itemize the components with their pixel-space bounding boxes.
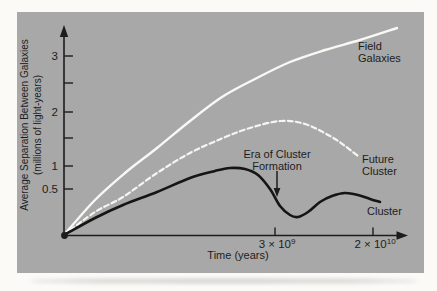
annotation-line2: Formation bbox=[243, 160, 310, 172]
series-label-future-cluster-line2: Cluster bbox=[362, 165, 397, 177]
y-tick-label: 1 bbox=[52, 160, 58, 172]
series-label-future-cluster: Future Cluster bbox=[362, 153, 397, 177]
x-axis-arrowhead-icon bbox=[397, 231, 409, 239]
y-axis-title-line1: Average Separation Between Galaxies bbox=[18, 39, 31, 211]
series-label-future-cluster-line1: Future bbox=[362, 153, 397, 165]
x-tick-label: 2 × 1010 bbox=[354, 237, 396, 251]
curve-future-cluster bbox=[64, 121, 358, 235]
y-tick-label: 3 bbox=[52, 50, 58, 62]
annotation-era-of-cluster-formation: Era of Cluster Formation bbox=[243, 148, 310, 172]
y-axis-title-line2: (millions of light-years) bbox=[31, 39, 44, 211]
origin-dot bbox=[61, 232, 68, 239]
series-label-field-galaxies-line1: Field bbox=[358, 40, 401, 52]
x-axis-title: Time (years) bbox=[207, 249, 268, 261]
series-label-field-galaxies: Field Galaxies bbox=[358, 40, 401, 64]
annotation-line1: Era of Cluster bbox=[243, 148, 310, 160]
y-tick-label: 0.5 bbox=[42, 183, 58, 195]
textbook-figure: 3210.53 × 1092 × 1010 Average Separation… bbox=[0, 0, 437, 291]
series-label-field-galaxies-line2: Galaxies bbox=[358, 52, 401, 64]
curve-field-galaxies bbox=[64, 28, 397, 235]
page-scan-shadow bbox=[30, 279, 418, 283]
y-axis-arrowhead-icon bbox=[60, 25, 68, 37]
x-tick-label: 3 × 109 bbox=[259, 237, 296, 251]
y-tick-label: 2 bbox=[52, 106, 58, 118]
curve-cluster bbox=[64, 168, 380, 235]
series-label-cluster: Cluster bbox=[367, 205, 402, 217]
y-axis-title: Average Separation Between Galaxies (mil… bbox=[18, 39, 44, 211]
